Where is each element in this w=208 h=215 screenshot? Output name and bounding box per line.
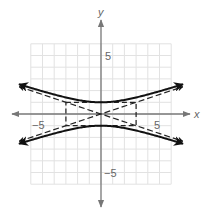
hyperbola-graph: y x 5 −5 −5 5 xyxy=(0,0,208,215)
y-axis-label: y xyxy=(97,6,105,18)
y-tick-label-neg5: −5 xyxy=(104,167,117,179)
axis-labels: y x 5 −5 −5 5 xyxy=(32,6,200,179)
x-tick-label-5: 5 xyxy=(154,119,160,131)
x-axis-label: x xyxy=(193,108,200,120)
x-tick-label-neg5: −5 xyxy=(32,119,45,131)
y-tick-label-5: 5 xyxy=(105,50,111,62)
